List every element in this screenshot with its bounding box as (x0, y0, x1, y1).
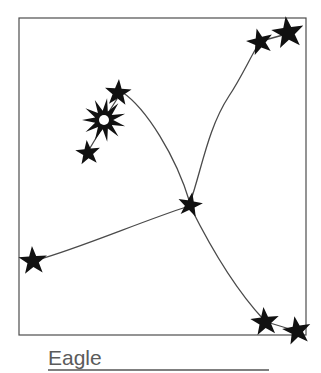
burst-star-hollow-center (99, 115, 109, 125)
constellation-figure: Eagle (0, 0, 321, 373)
figure-caption-label: Eagle (48, 346, 102, 369)
diagram-border-frame (19, 18, 306, 335)
diagram-canvas: Eagle (0, 0, 321, 373)
